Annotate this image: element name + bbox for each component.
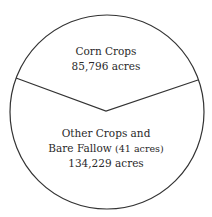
corn-crops-name: Corn Crops — [0, 44, 212, 59]
corn-crops-value: 85,796 acres — [0, 59, 212, 74]
bare-fallow-name: Bare Fallow — [48, 142, 115, 154]
corn-crops-label: Corn Crops 85,796 acres — [0, 44, 212, 74]
other-crops-label: Other Crops and Bare Fallow (41 acres) 1… — [0, 126, 212, 171]
bare-fallow-value: (41 acres) — [115, 143, 164, 154]
other-crops-name: Other Crops and — [0, 126, 212, 141]
pie-chart — [0, 0, 212, 217]
bare-fallow-line: Bare Fallow (41 acres) — [0, 141, 212, 156]
other-crops-value: 134,229 acres — [0, 156, 212, 171]
